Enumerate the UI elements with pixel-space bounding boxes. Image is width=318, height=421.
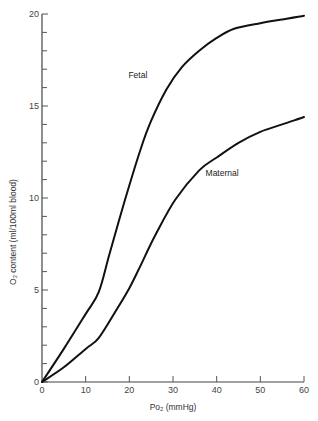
x-axis: 0102030405060 (39, 376, 309, 395)
y-tick-label: 10 (29, 193, 39, 203)
x-tick-label: 30 (168, 385, 178, 395)
maternal-curve-label: Maternal (206, 168, 239, 178)
y-axis: 05101520 (29, 9, 48, 387)
curves (42, 16, 304, 382)
y-tick-label: 15 (29, 101, 39, 111)
fetal-curve (42, 16, 304, 382)
fetal-curve-label: Fetal (128, 70, 147, 80)
x-tick-label: 50 (255, 385, 265, 395)
x-tick-label: 10 (81, 385, 91, 395)
x-axis-title: Po₂ (mmHg) (150, 402, 197, 412)
maternal-curve (42, 117, 304, 382)
x-tick-label: 60 (299, 385, 309, 395)
y-tick-label: 20 (29, 9, 39, 19)
oxygen-dissociation-chart: 05101520 0102030405060 O₂ content (ml/10… (0, 0, 318, 421)
y-axis-title: O₂ content (ml/100ml blood) (8, 179, 18, 285)
y-tick-label: 0 (34, 377, 39, 387)
x-tick-label: 40 (212, 385, 222, 395)
x-tick-label: 0 (39, 385, 44, 395)
y-tick-label: 5 (34, 285, 39, 295)
x-tick-label: 20 (124, 385, 134, 395)
